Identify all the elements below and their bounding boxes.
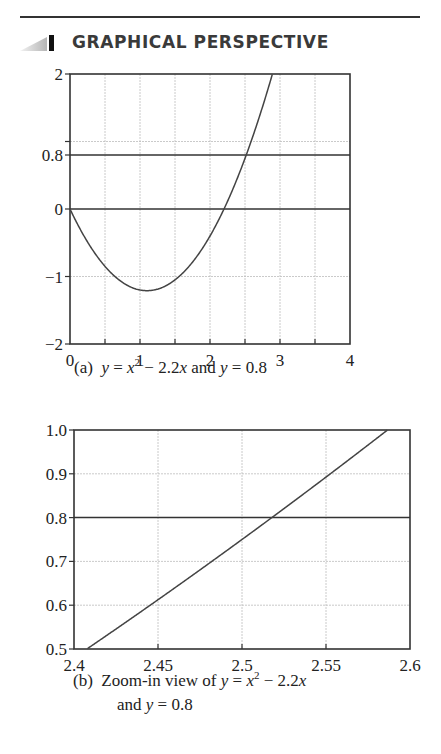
y-tick-label: 0.7 xyxy=(46,552,68,571)
parabola-curve xyxy=(87,430,387,648)
y-tick-label: 1.0 xyxy=(46,421,67,440)
caption-a-label: (a) xyxy=(74,358,93,377)
chart-a-plot: 20.80−1−201234 xyxy=(42,65,355,370)
x-tick-label: 4 xyxy=(346,351,355,370)
x-tick-label: 2.6 xyxy=(399,656,420,675)
caption-a: (a) y = x2 − 2.2x and y = 0.8 xyxy=(74,356,267,378)
y-tick-label: −1 xyxy=(45,268,63,287)
x-tick-label: 2.55 xyxy=(311,656,341,675)
parabola-curve xyxy=(70,74,272,290)
chart-b-plot: 1.00.90.80.70.60.52.42.452.52.552.6 xyxy=(46,421,421,675)
y-tick-label: 0.8 xyxy=(46,509,67,528)
y-tick-label: 0.9 xyxy=(46,465,67,484)
caption-b: (b) Zoom-in view of y = x2 − 2.2x and y … xyxy=(73,663,306,717)
y-tick-label: 2 xyxy=(55,65,64,84)
y-tick-label: −2 xyxy=(45,335,63,354)
caption-b-label: (b) xyxy=(73,671,93,690)
x-tick-label: 0 xyxy=(66,351,75,370)
y-tick-label: 0.8 xyxy=(42,146,63,165)
y-tick-label: 0 xyxy=(55,200,64,219)
x-tick-label: 3 xyxy=(276,351,285,370)
y-tick-label: 0.6 xyxy=(46,596,67,615)
